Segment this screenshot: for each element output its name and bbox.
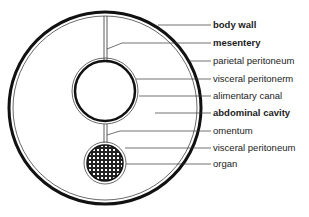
organ <box>87 145 123 181</box>
label-alimentary-canal: alimentary canal <box>213 90 282 101</box>
alimentary-canal <box>75 61 135 121</box>
label-mesentery: mesentery <box>213 37 261 48</box>
label-visceral-peritonerm: visceral peritonerm <box>213 73 293 84</box>
label-organ: organ <box>213 158 237 169</box>
label-omentum: omentum <box>213 125 253 136</box>
label-visceral-peritoneum: visceral peritoneum <box>213 142 295 153</box>
label-abdominal-cavity: abdominal cavity <box>213 107 290 118</box>
label-parietal-peritoneum: parietal peritoneum <box>213 55 294 66</box>
label-body-wall: body wall <box>213 19 256 30</box>
